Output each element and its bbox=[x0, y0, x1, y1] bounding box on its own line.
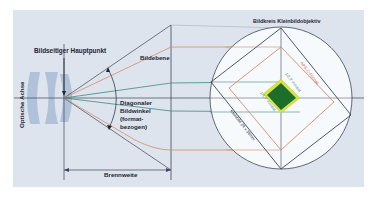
principal-point-label: Bildseitiger Hauptpunkt bbox=[34, 47, 107, 55]
focal-length-label: Brennweite bbox=[104, 171, 138, 178]
lens-image-circle-diagram: Bildseitiger Hauptpunkt Bildebene Optisc… bbox=[0, 0, 378, 201]
diagonal-angle-label-1: Diagonaler bbox=[120, 99, 153, 106]
image-circle-title: Bildkreis Kleinbildobjektiv bbox=[253, 18, 320, 24]
diagonal-angle-label-3: (format- bbox=[120, 115, 143, 122]
diagonal-angle-label-2: Bildwinkel bbox=[120, 107, 151, 114]
image-plane-label: Bildebene bbox=[140, 54, 170, 61]
optical-axis-label: Optische Achse bbox=[18, 81, 25, 128]
diagonal-angle-label-4: bezogen) bbox=[120, 123, 147, 130]
